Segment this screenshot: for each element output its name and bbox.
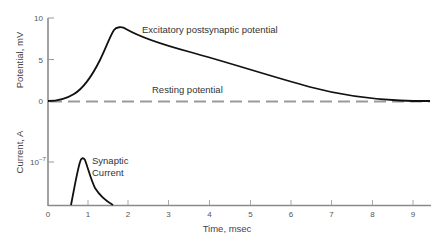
x-tick-labels: 0 1 2 3 4 5 6 7 8 9: [46, 210, 416, 219]
y-tick-label-current: 10−7: [30, 156, 46, 167]
svg-text:7: 7: [329, 210, 334, 219]
y-tick-label-0: 0: [39, 97, 44, 106]
svg-text:6: 6: [289, 210, 294, 219]
epsp-curve: [48, 27, 430, 101]
y-tick-label-10: 10: [34, 14, 43, 23]
resting-potential-label: Resting potential: [152, 84, 223, 95]
svg-text:2: 2: [126, 210, 131, 219]
svg-text:5: 5: [248, 210, 253, 219]
chart: 10 5 0 10−7 0 1 2 3 4 5 6 7 8 9 Time, ms…: [0, 0, 445, 241]
svg-text:3: 3: [166, 210, 171, 219]
svg-text:0: 0: [46, 210, 51, 219]
synaptic-current-label-line1: Synaptic: [92, 155, 129, 166]
epsp-label: Excitatory postsynaptic potential: [142, 24, 278, 35]
svg-text:4: 4: [207, 210, 212, 219]
y-tick-label-5: 5: [39, 56, 44, 65]
svg-text:9: 9: [411, 210, 416, 219]
svg-text:8: 8: [370, 210, 375, 219]
synaptic-current-label-line2: Current: [92, 167, 124, 178]
y-axis-title-potential: Potential, mV: [14, 31, 25, 88]
x-axis-title: Time, msec: [203, 223, 252, 234]
y-axis-title-current: Current, A: [14, 130, 25, 173]
svg-text:1: 1: [86, 210, 91, 219]
x-ticks: [88, 200, 413, 205]
